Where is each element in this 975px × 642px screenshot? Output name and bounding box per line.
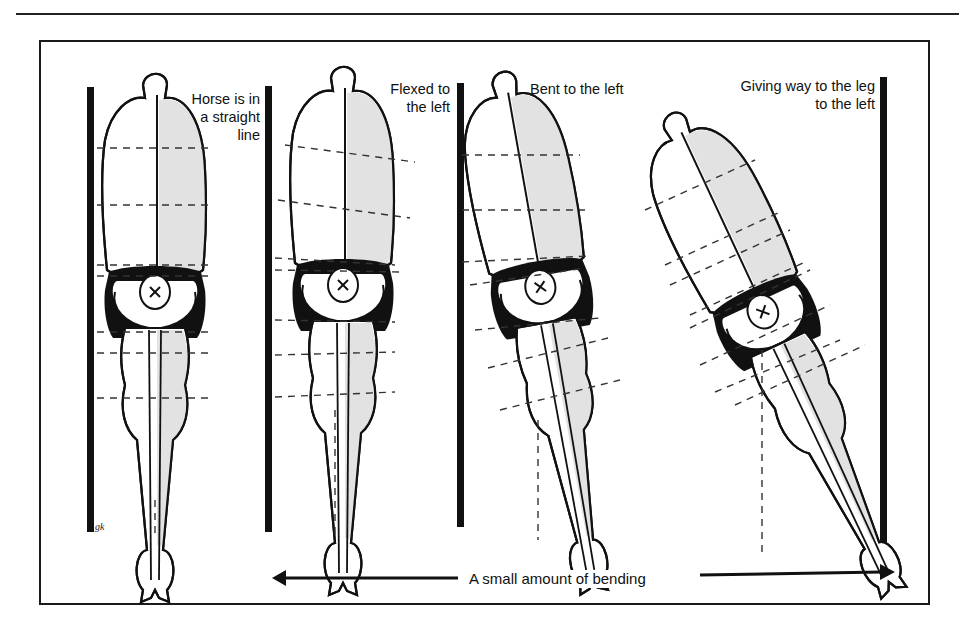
horse-straight: [102, 74, 206, 602]
label-line: the left: [355, 98, 450, 116]
label-straight: Horse is in a straight line: [160, 90, 260, 144]
label-flexed: Flexed to the left: [355, 80, 450, 116]
label-giving-way: Giving way to the leg to the left: [700, 77, 875, 113]
horse-flexed: [290, 67, 394, 595]
label-line: a straight: [160, 108, 260, 126]
wall-2: [265, 86, 272, 532]
horse-giving-way: [623, 93, 940, 616]
label-line: Flexed to: [355, 80, 450, 98]
label-line: Giving way to the leg: [700, 77, 875, 95]
label-bent: Bent to the left: [530, 80, 690, 98]
label-line: Bent to the left: [530, 80, 690, 98]
wall-3: [457, 83, 464, 527]
artist-signature: gk: [95, 521, 105, 532]
label-line: to the left: [700, 95, 875, 113]
wall-4: [880, 77, 887, 549]
caption: A small amount of bending: [463, 570, 652, 588]
label-line: line: [160, 126, 260, 144]
wall-1: [87, 87, 94, 532]
label-line: Horse is in: [160, 90, 260, 108]
horse-bent: [450, 63, 644, 601]
